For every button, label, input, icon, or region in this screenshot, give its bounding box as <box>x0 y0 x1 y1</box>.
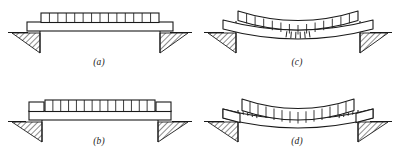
panel-a-caption: (a) <box>0 57 198 67</box>
panel-b-caption: (b) <box>0 136 198 146</box>
uniform-load-block <box>45 100 155 112</box>
beam-figure: (a) <box>0 0 396 161</box>
panel-d-caption: (d) <box>198 136 396 146</box>
panel-d <box>198 80 396 160</box>
end-block-right <box>156 102 171 112</box>
panel-a <box>0 0 198 80</box>
panel-a-drawing <box>0 0 198 80</box>
panel-b <box>0 80 198 160</box>
panel-b-drawing <box>0 80 198 161</box>
panel-d-drawing <box>198 80 396 161</box>
end-block-left <box>29 102 44 112</box>
panel-c-drawing <box>198 0 396 80</box>
uniform-load-block <box>41 13 159 23</box>
beam-member <box>29 111 171 120</box>
panel-c-caption: (c) <box>198 57 396 67</box>
panel-c <box>198 0 396 80</box>
beam-member <box>27 22 173 31</box>
end-block-left <box>223 109 240 123</box>
